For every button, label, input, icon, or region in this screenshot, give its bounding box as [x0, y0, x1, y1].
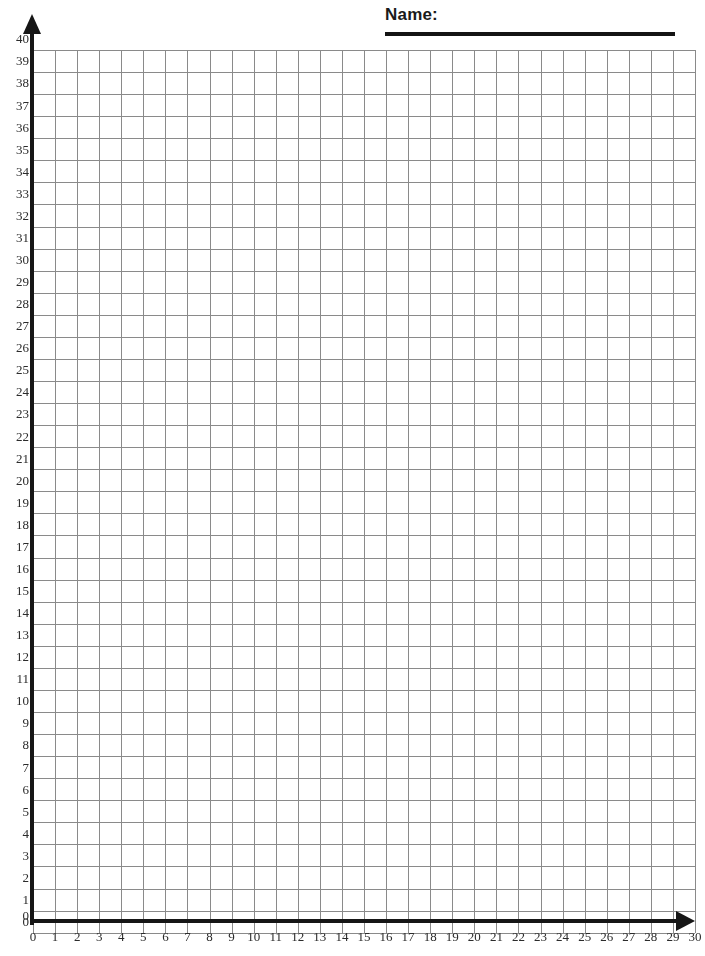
- y-axis-tick-label: 9: [0, 716, 29, 729]
- y-axis-tick-label: 12: [0, 650, 29, 663]
- y-axis-tick-label: 3: [0, 849, 29, 862]
- y-axis-tick-label: 14: [0, 606, 29, 619]
- y-axis-tick-label: 10: [0, 694, 29, 707]
- y-axis-tick-label: 6: [0, 783, 29, 796]
- grid-lines: [33, 50, 697, 935]
- x-axis-tick-labels: 0123456789101112131415161718192021222324…: [0, 930, 697, 950]
- y-axis-tick-label: 13: [0, 628, 29, 641]
- y-axis-origin-label: 0: [0, 909, 29, 922]
- y-axis-tick-label: 8: [0, 738, 29, 751]
- y-axis-tick-label: 11: [0, 672, 29, 685]
- y-axis-tick-label: 2: [0, 871, 29, 884]
- y-axis-tick-label: 4: [0, 827, 29, 840]
- x-axis-tick-label: 30: [680, 930, 705, 943]
- y-axis-tick-label: 20: [0, 474, 29, 487]
- x-axis-line: [30, 919, 680, 923]
- y-axis-tick-label: 27: [0, 319, 29, 332]
- y-axis-tick-label: 36: [0, 121, 29, 134]
- name-write-in-line[interactable]: [385, 32, 675, 36]
- y-axis-tick-label: 23: [0, 407, 29, 420]
- y-axis-tick-label: 37: [0, 99, 29, 112]
- y-axis-tick-label: 39: [0, 54, 29, 67]
- y-axis-tick-label: 31: [0, 231, 29, 244]
- y-axis-tick-label: 32: [0, 209, 29, 222]
- y-axis-tick-label: 35: [0, 143, 29, 156]
- x-axis-arrow-icon: [676, 911, 695, 931]
- y-axis-tick-label: 15: [0, 584, 29, 597]
- y-axis-tick-label: 24: [0, 385, 29, 398]
- y-axis-tick-label: 7: [0, 761, 29, 774]
- y-axis-tick-label: 19: [0, 496, 29, 509]
- y-axis-tick-label: 34: [0, 165, 29, 178]
- y-axis-tick-label: 38: [0, 76, 29, 89]
- plot-grid-area: [33, 50, 695, 921]
- y-axis-tick-label: 17: [0, 540, 29, 553]
- y-axis-tick-label: 18: [0, 518, 29, 531]
- y-axis-tick-label: 29: [0, 275, 29, 288]
- y-axis-tick-label: 28: [0, 297, 29, 310]
- y-axis-tick-label: 16: [0, 562, 29, 575]
- y-axis-tick-label: 21: [0, 452, 29, 465]
- y-axis-tick-labels: 0123456789101112131415161718192021222324…: [0, 0, 29, 956]
- y-axis-tick-label: 22: [0, 430, 29, 443]
- name-header: Name:: [385, 5, 677, 39]
- y-axis-tick-label: 5: [0, 805, 29, 818]
- y-axis-line: [30, 30, 34, 925]
- name-label: Name:: [385, 5, 438, 25]
- y-axis-tick-label: 33: [0, 187, 29, 200]
- y-axis-tick-label: 25: [0, 363, 29, 376]
- y-axis-tick-label: 1: [0, 893, 29, 906]
- y-axis-tick-label: 30: [0, 253, 29, 266]
- y-axis-tick-label: 40: [0, 32, 29, 45]
- y-axis-tick-label: 26: [0, 341, 29, 354]
